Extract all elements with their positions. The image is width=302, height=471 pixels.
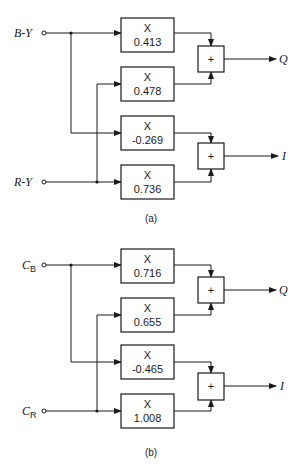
multiplier-box-b4: X 1.008 <box>121 394 174 428</box>
multiplier-box-a2: X 0.478 <box>121 67 174 101</box>
input-terminal-r-y <box>42 180 46 184</box>
coefficient-value: -0.269 <box>132 134 163 146</box>
multiply-symbol: X <box>144 120 152 132</box>
wire-cr-to-mult2 <box>97 315 121 411</box>
input-terminal-cr <box>42 409 46 413</box>
coefficient-value: 0.413 <box>134 36 162 48</box>
multiply-symbol: X <box>144 349 152 361</box>
input-label-b-y: B-Y <box>14 26 33 40</box>
multiply-symbol: X <box>144 71 152 83</box>
coefficient-value: 0.478 <box>134 85 162 97</box>
wire-mult3-to-adder-i <box>174 133 211 143</box>
input-label-cb: CB <box>22 258 36 274</box>
wire-mult1-to-adder-q <box>174 33 211 46</box>
multiplier-box-a1: X 0.413 <box>121 18 174 52</box>
panel-b: CB CR X 0.716 X 0.655 X -0.465 X <box>22 249 288 458</box>
output-label-q: Q <box>279 283 288 297</box>
multiply-symbol: X <box>144 398 152 410</box>
multiply-symbol: X <box>144 169 152 181</box>
output-label-i: I <box>281 149 287 163</box>
coefficient-value: 0.655 <box>134 316 162 328</box>
multiply-symbol: X <box>144 253 152 265</box>
wire-cb-to-mult3 <box>71 265 121 362</box>
adder-box-q: + <box>198 277 224 303</box>
wire-mult4-to-adder-i <box>174 400 211 411</box>
input-terminal-b-y <box>42 31 46 35</box>
wire-mult4-to-adder-i <box>174 169 211 182</box>
coefficient-value: 0.716 <box>134 267 162 279</box>
input-terminal-cb <box>42 263 46 267</box>
plus-symbol: + <box>208 150 214 162</box>
multiplier-box-b1: X 0.716 <box>121 249 174 283</box>
multiply-symbol: X <box>144 302 152 314</box>
adder-box-i: + <box>198 143 224 169</box>
wire-mult2-to-adder-q <box>174 303 211 315</box>
multiplier-box-a3: X -0.269 <box>121 116 174 150</box>
multiplier-box-b2: X 0.655 <box>121 298 174 332</box>
panel-caption-b: (b) <box>145 447 157 458</box>
wire-mult1-to-adder-q <box>174 265 211 277</box>
wire-mult3-to-adder-i <box>174 362 211 373</box>
panel-caption-a: (a) <box>145 213 157 224</box>
wire-mult2-to-adder-q <box>174 72 211 84</box>
wire-b-y-to-mult3 <box>71 33 121 133</box>
output-label-i: I <box>279 379 285 393</box>
input-label-r-y: R-Y <box>13 175 33 189</box>
panel-a: B-Y R-Y X 0.413 X 0.478 X -0.269 <box>13 18 288 224</box>
multiplier-box-a4: X 0.736 <box>121 165 174 199</box>
multiply-symbol: X <box>144 22 152 34</box>
coefficient-value: 1.008 <box>134 412 162 424</box>
plus-symbol: + <box>208 53 214 65</box>
input-label-cr: CR <box>22 404 37 420</box>
coefficient-value: 0.736 <box>134 183 162 195</box>
plus-symbol: + <box>208 284 214 296</box>
adder-box-i: + <box>198 373 224 400</box>
diagram-canvas: B-Y R-Y X 0.413 X 0.478 X -0.269 <box>0 0 302 471</box>
output-label-q: Q <box>279 52 288 66</box>
adder-box-q: + <box>198 46 224 72</box>
coefficient-value: -0.465 <box>132 363 163 375</box>
plus-symbol: + <box>208 380 214 392</box>
multiplier-box-b3: X -0.465 <box>121 345 174 379</box>
